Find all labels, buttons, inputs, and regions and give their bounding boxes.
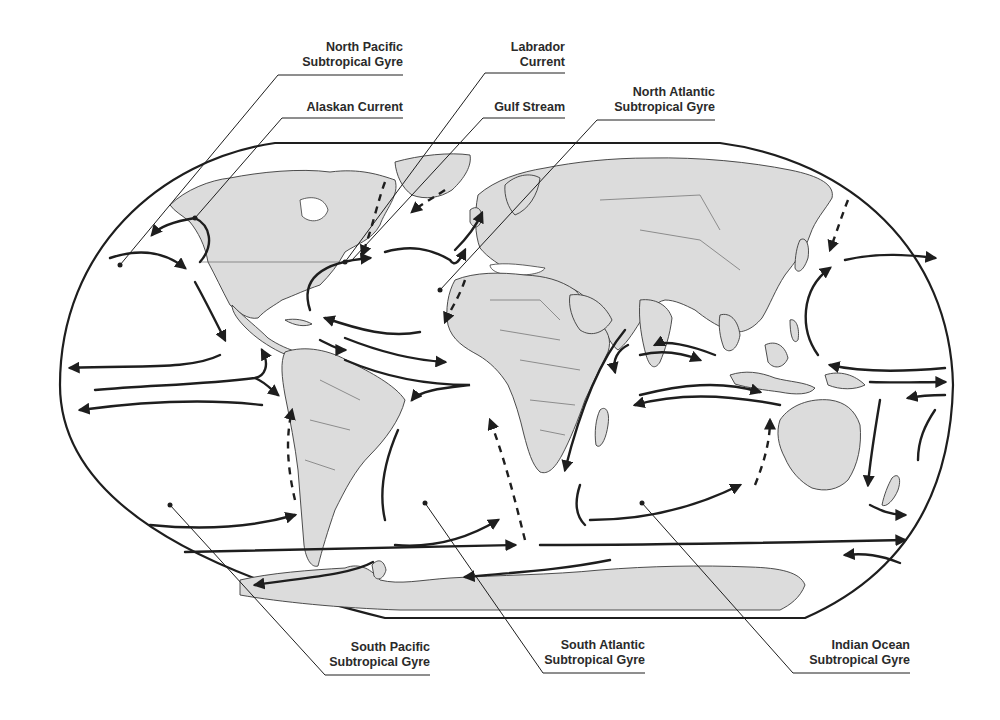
label-north-pacific-gyre: North Pacific Subtropical Gyre <box>272 40 403 70</box>
label-line: Labrador <box>465 40 565 55</box>
label-line: Subtropical Gyre <box>515 653 645 668</box>
label-gulf-stream: Gulf Stream <box>465 100 565 115</box>
label-labrador-current: Labrador Current <box>465 40 565 70</box>
label-line: Subtropical Gyre <box>590 100 715 115</box>
label-north-atlantic-gyre: North Atlantic Subtropical Gyre <box>590 85 715 115</box>
label-south-atlantic-gyre: South Atlantic Subtropical Gyre <box>515 638 645 668</box>
label-line: Current <box>465 55 565 70</box>
label-indian-ocean-gyre: Indian Ocean Subtropical Gyre <box>780 638 910 668</box>
label-line: Gulf Stream <box>465 100 565 115</box>
label-alaskan-current: Alaskan Current <box>272 100 403 115</box>
label-line: Indian Ocean <box>780 638 910 653</box>
label-line: South Atlantic <box>515 638 645 653</box>
label-line: Subtropical Gyre <box>300 655 430 670</box>
label-line: Alaskan Current <box>272 100 403 115</box>
label-south-pacific-gyre: South Pacific Subtropical Gyre <box>300 640 430 670</box>
label-line: North Pacific <box>272 40 403 55</box>
label-line: Subtropical Gyre <box>272 55 403 70</box>
label-line: Subtropical Gyre <box>780 653 910 668</box>
label-line: North Atlantic <box>590 85 715 100</box>
label-line: South Pacific <box>300 640 430 655</box>
